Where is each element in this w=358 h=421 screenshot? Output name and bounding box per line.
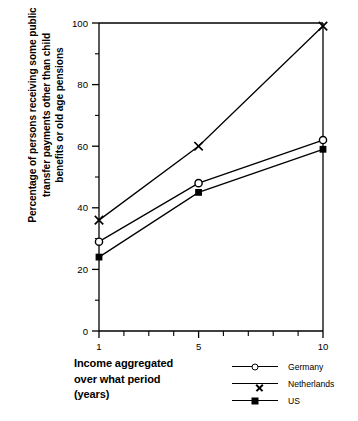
- y-tick-label-0: 0: [83, 326, 88, 337]
- legend-label-us: US: [288, 396, 300, 406]
- series-line-us: [99, 149, 323, 257]
- x-tick-label-5: 5: [196, 341, 201, 352]
- series-netherlands: [95, 22, 327, 224]
- y-axis-title: Percentage of persons receiving some pub…: [26, 0, 96, 260]
- legend-item-netherlands[interactable]: Netherlands: [232, 375, 356, 392]
- legend-line-netherlands: [232, 377, 278, 391]
- datapoint-circle-open: [95, 238, 102, 245]
- chart-figure: Percentage of persons receiving some pub…: [0, 0, 358, 421]
- legend-line-us: [232, 394, 278, 408]
- legend-item-us[interactable]: US: [232, 392, 356, 409]
- series-line-netherlands: [99, 26, 323, 220]
- square-filled-marker-icon: [252, 397, 259, 404]
- legend-label-germany: Germany: [288, 362, 323, 372]
- series-line-germany: [99, 140, 323, 242]
- datapoint-square-filled: [195, 189, 202, 196]
- datapoint-circle-open: [319, 136, 326, 143]
- x-axis-title: Income aggregated over what period (year…: [74, 356, 224, 403]
- legend-item-germany[interactable]: Germany: [232, 358, 356, 375]
- y-tick-label-20: 20: [77, 264, 88, 275]
- series-germany: [95, 136, 326, 245]
- legend-line-germany: [232, 360, 278, 374]
- y-axis-title-text: Percentage of persons receiving some pub…: [26, 0, 67, 260]
- datapoint-cross: [194, 142, 202, 150]
- x-tick-label-1: 1: [96, 341, 101, 352]
- legend-label-netherlands: Netherlands: [288, 379, 334, 389]
- chart-legend: Germany Netherlands US: [232, 358, 356, 409]
- x-tick-label-10: 10: [318, 341, 329, 352]
- circle-open-marker-icon: [252, 363, 259, 370]
- datapoint-circle-open: [195, 180, 202, 187]
- series-us: [96, 146, 327, 261]
- datapoint-square-filled: [96, 254, 103, 261]
- x-axis-ticks: [99, 331, 323, 338]
- series-layer: [95, 22, 327, 261]
- datapoint-square-filled: [320, 146, 327, 153]
